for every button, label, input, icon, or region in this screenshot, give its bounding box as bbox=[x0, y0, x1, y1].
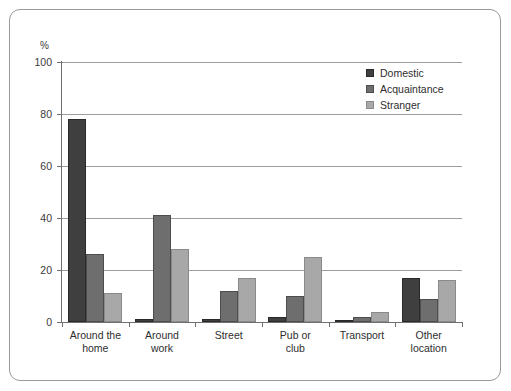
legend-label: Stranger bbox=[380, 99, 420, 111]
y-tick-label: 40 bbox=[18, 213, 52, 223]
bar bbox=[202, 319, 220, 322]
x-category-label-line: Street bbox=[195, 329, 262, 342]
bar bbox=[135, 319, 153, 322]
x-category-label: Otherlocation bbox=[395, 329, 462, 355]
bar bbox=[238, 278, 256, 322]
x-category-label-line: home bbox=[62, 342, 129, 355]
legend-item: Domestic bbox=[366, 66, 444, 80]
bar bbox=[86, 254, 104, 322]
x-category-tick bbox=[195, 322, 196, 327]
x-category-tick bbox=[395, 322, 396, 327]
y-tick-label: 80 bbox=[18, 109, 52, 119]
legend-item: Stranger bbox=[366, 98, 444, 112]
x-category-label-line: Other bbox=[395, 329, 462, 342]
x-category-label-line: Around bbox=[129, 329, 196, 342]
bar bbox=[371, 312, 389, 322]
x-category-label-line: location bbox=[395, 342, 462, 355]
legend-label: Domestic bbox=[380, 67, 424, 79]
bar-group bbox=[268, 62, 322, 322]
y-tick-mark bbox=[57, 62, 61, 63]
x-category-label-line: club bbox=[262, 342, 329, 355]
bar-group bbox=[202, 62, 256, 322]
x-category-tick bbox=[329, 322, 330, 327]
x-category-tick bbox=[262, 322, 263, 327]
x-category-tick bbox=[62, 322, 63, 327]
y-tick-label: 20 bbox=[18, 265, 52, 275]
bar bbox=[335, 320, 353, 322]
legend-label: Acquaintance bbox=[380, 83, 444, 95]
legend-swatch-icon bbox=[366, 69, 374, 77]
x-category-label: Transport bbox=[329, 329, 396, 342]
bar bbox=[402, 278, 420, 322]
x-category-label: Around thehome bbox=[62, 329, 129, 355]
bar bbox=[268, 317, 286, 322]
y-tick-mark bbox=[57, 322, 61, 323]
bar bbox=[353, 317, 371, 322]
x-category-label: Pub orclub bbox=[262, 329, 329, 355]
x-category-label-line: work bbox=[129, 342, 196, 355]
chart-legend: DomesticAcquaintanceStranger bbox=[366, 66, 444, 114]
chart-figure: % 020406080100 Around thehomeAroundworkS… bbox=[0, 0, 511, 391]
legend-item: Acquaintance bbox=[366, 82, 444, 96]
bar bbox=[438, 280, 456, 322]
bar bbox=[286, 296, 304, 322]
y-tick-label: 100 bbox=[18, 57, 52, 67]
y-tick-mark bbox=[57, 114, 61, 115]
y-tick-mark bbox=[57, 270, 61, 271]
bar bbox=[68, 119, 86, 322]
bar bbox=[171, 249, 189, 322]
x-category-label-line: Pub or bbox=[262, 329, 329, 342]
x-category-label-line: Transport bbox=[329, 329, 396, 342]
x-category-tick bbox=[129, 322, 130, 327]
bar bbox=[104, 293, 122, 322]
bar bbox=[220, 291, 238, 322]
bar-group bbox=[68, 62, 122, 322]
legend-swatch-icon bbox=[366, 85, 374, 93]
legend-swatch-icon bbox=[366, 101, 374, 109]
bar bbox=[153, 215, 171, 322]
x-category-label-line: Around the bbox=[62, 329, 129, 342]
x-category-tick bbox=[462, 322, 463, 327]
x-category-label: Aroundwork bbox=[129, 329, 196, 355]
y-tick-label: 0 bbox=[18, 317, 52, 327]
bar bbox=[304, 257, 322, 322]
y-axis-unit-label: % bbox=[40, 40, 49, 51]
y-tick-mark bbox=[57, 218, 61, 219]
y-tick-mark bbox=[57, 166, 61, 167]
x-category-label: Street bbox=[195, 329, 262, 342]
bar bbox=[420, 299, 438, 322]
bar-group bbox=[135, 62, 189, 322]
y-tick-label: 60 bbox=[18, 161, 52, 171]
